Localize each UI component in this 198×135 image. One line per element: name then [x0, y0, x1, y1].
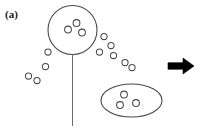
- particle-dot: [73, 20, 80, 27]
- particle-dot: [121, 91, 128, 98]
- particle-dot: [117, 102, 124, 109]
- particle-dot: [110, 52, 116, 58]
- particles-lower-left-of-balloon: [45, 49, 51, 55]
- particle-dot: [96, 49, 102, 55]
- particles-inside-oval: [117, 91, 140, 108]
- figure-panel: (a): [0, 0, 198, 135]
- particle-dot: [34, 77, 40, 83]
- large-open-circle: [48, 6, 97, 55]
- particle-dot: [122, 59, 128, 65]
- particles-escaping-trail: [96, 33, 135, 70]
- right-arrow-icon: [168, 58, 194, 74]
- particles-scattered-left: [25, 63, 48, 83]
- particle-dot: [79, 29, 86, 36]
- particle-dot: [42, 63, 48, 69]
- figure-canvas: [0, 0, 198, 135]
- particle-dot: [65, 26, 72, 33]
- particles-inside-balloon: [65, 20, 86, 36]
- particle-dot: [129, 64, 135, 70]
- particle-dot: [133, 100, 140, 107]
- particle-dot: [45, 49, 51, 55]
- particle-dot: [108, 42, 114, 48]
- oval-enclosure: [101, 84, 162, 117]
- particle-dot: [101, 33, 107, 39]
- particle-dot: [25, 73, 31, 79]
